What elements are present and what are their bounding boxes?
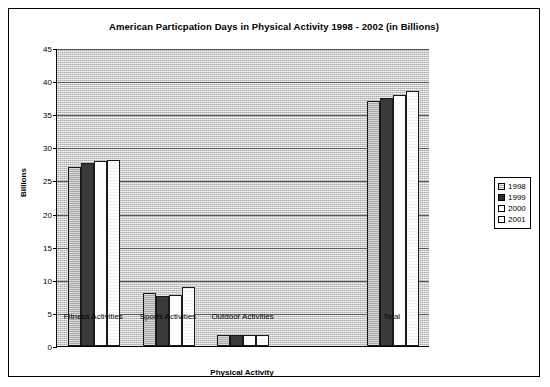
- legend-item: 2000: [498, 203, 526, 214]
- y-axis-tick-label: 45: [43, 45, 52, 54]
- bar: [156, 296, 169, 346]
- y-axis-tick-label: 30: [43, 144, 52, 153]
- bar: [406, 91, 419, 346]
- bar: [367, 101, 380, 346]
- y-axis-tick-label: 20: [43, 210, 52, 219]
- bar-group: [206, 49, 281, 346]
- y-axis-title: Billions: [19, 168, 28, 197]
- chart-legend: 1998199920002001: [494, 177, 531, 229]
- bar: [243, 335, 256, 346]
- legend-item-label: 1998: [508, 182, 526, 191]
- bar: [393, 95, 406, 346]
- y-axis-tick-label: 0: [48, 343, 52, 352]
- bar: [256, 335, 269, 346]
- legend-item-label: 2001: [508, 215, 526, 224]
- bar: [380, 98, 393, 346]
- legend-item-label: 2000: [508, 204, 526, 213]
- y-axis-tick-label: 35: [43, 111, 52, 120]
- legend-item: 1998: [498, 181, 526, 192]
- legend-item-label: 1999: [508, 193, 526, 202]
- x-axis-title: Physical Activity: [56, 368, 428, 377]
- legend-swatch-icon: [498, 194, 505, 201]
- y-axis-tick-label: 10: [43, 276, 52, 285]
- y-axis-tick-mark: [53, 347, 57, 348]
- y-axis-tick-label: 5: [48, 309, 52, 318]
- bar: [230, 335, 243, 346]
- bar-group: [57, 49, 132, 346]
- x-axis-category-label: Total: [383, 312, 400, 321]
- y-axis-tick-label: 15: [43, 243, 52, 252]
- bar-group: [132, 49, 207, 346]
- chart-title: American Particpation Days in Physical A…: [9, 21, 539, 32]
- chart-frame: American Particpation Days in Physical A…: [8, 8, 540, 377]
- legend-swatch-icon: [498, 205, 505, 212]
- y-axis-tick-label: 40: [43, 78, 52, 87]
- legend-swatch-icon: [498, 216, 505, 223]
- legend-item: 1999: [498, 192, 526, 203]
- bar: [217, 335, 230, 346]
- legend-swatch-icon: [498, 183, 505, 190]
- bar-group: [355, 49, 430, 346]
- y-axis-tick-label: 25: [43, 177, 52, 186]
- legend-item: 2001: [498, 214, 526, 225]
- x-axis-category-label: Outdoor Activities: [211, 312, 273, 321]
- x-axis-category-label: Fitness Activities: [64, 312, 123, 321]
- plot-area: 051015202530354045: [56, 49, 429, 347]
- x-axis-category-label: Sports Activities: [140, 312, 196, 321]
